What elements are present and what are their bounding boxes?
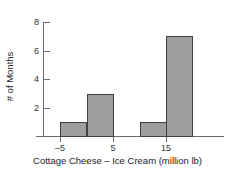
histogram-bar bbox=[140, 122, 167, 137]
x-axis-tick-mark bbox=[60, 137, 61, 142]
y-axis-tick-label: 2 bbox=[24, 104, 39, 113]
x-axis-tick-label: –5 bbox=[45, 143, 75, 154]
x-axis-tick-label: 15 bbox=[151, 143, 181, 154]
y-axis-tick-label-text: 6 bbox=[24, 47, 39, 56]
y-axis-tick-label-text: 8 bbox=[24, 18, 39, 27]
x-axis-tick-label-text: 15 bbox=[151, 143, 181, 154]
x-axis-tick-mark bbox=[113, 137, 114, 142]
y-axis-tick-label: 6 bbox=[24, 47, 39, 56]
y-axis-tick-mark bbox=[44, 79, 50, 80]
y-axis-tick-mark bbox=[44, 108, 50, 109]
y-axis-tick-mark bbox=[44, 51, 50, 52]
x-axis-tick-label: 5 bbox=[98, 143, 128, 154]
plot-area: 2 4 6 8 –5 5 15 bbox=[0, 0, 235, 175]
histogram-chart: 2 4 6 8 –5 5 15 bbox=[0, 0, 235, 175]
x-axis-title: Cottage Cheese – Ice Cream (million lb) bbox=[0, 155, 235, 166]
histogram-bar bbox=[166, 36, 193, 137]
y-axis-title: # of Months bbox=[4, 42, 15, 112]
histogram-bar bbox=[87, 94, 114, 137]
y-axis-tick-label-text: 2 bbox=[24, 104, 39, 113]
x-axis-tick-label-text: –5 bbox=[45, 143, 75, 154]
x-axis-tick-label-text: 5 bbox=[98, 143, 128, 154]
y-axis-tick-label: 8 bbox=[24, 18, 39, 27]
x-axis-tick-mark bbox=[166, 137, 167, 142]
y-axis-tick-label: 4 bbox=[24, 75, 39, 84]
y-axis-tick-mark bbox=[44, 22, 50, 23]
histogram-bar bbox=[60, 122, 87, 137]
y-axis-tick-label-text: 4 bbox=[24, 75, 39, 84]
